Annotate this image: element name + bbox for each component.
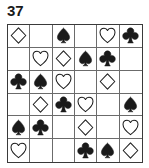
filled-club-icon [77,142,94,159]
grid-cell-r5c6[interactable] [120,116,142,139]
outline-diamond-icon [10,27,27,44]
grid-cell-r4c3[interactable] [53,94,75,117]
grid-cell-r6c6[interactable] [120,139,142,162]
grid-cell-r3c4[interactable] [75,71,97,94]
filled-spade-icon [77,50,94,67]
grid-cell-r4c5[interactable] [97,94,119,117]
grid-cell-r1c3[interactable] [53,25,75,48]
grid-cell-r6c1[interactable] [8,139,30,162]
grid-cell-r6c3[interactable] [53,139,75,162]
filled-spade-icon [32,73,49,90]
grid-cell-r1c1[interactable] [8,25,30,48]
filled-club-icon [32,119,49,136]
outline-heart-icon [55,73,72,90]
grid-cell-r1c5[interactable] [97,25,119,48]
grid-cell-r4c4[interactable] [75,94,97,117]
grid-cell-r2c3[interactable] [53,48,75,71]
grid-cell-r6c5[interactable] [97,139,119,162]
outline-heart-icon [99,27,116,44]
grid-cell-r4c6[interactable] [120,94,142,117]
grid-cell-r5c1[interactable] [8,116,30,139]
outline-diamond-icon [55,50,72,67]
grid-cell-r1c6[interactable] [120,25,142,48]
suit-grid[interactable] [7,24,143,163]
grid-cell-r3c1[interactable] [8,71,30,94]
puzzle-number-label: 37 [7,2,24,20]
grid-cell-r3c2[interactable] [30,71,52,94]
grid-cell-r5c3[interactable] [53,116,75,139]
filled-spade-icon [122,96,139,113]
grid-cell-r1c2[interactable] [30,25,52,48]
grid-cell-r3c6[interactable] [120,71,142,94]
filled-spade-icon [99,142,116,159]
puzzle-panel: 37 [0,0,149,168]
grid-cell-r4c2[interactable] [30,94,52,117]
outline-heart-icon [77,96,94,113]
grid-cell-r6c4[interactable] [75,139,97,162]
grid-cell-r2c1[interactable] [8,48,30,71]
filled-club-icon [99,50,116,67]
grid-cell-r2c6[interactable] [120,48,142,71]
grid-cell-r2c4[interactable] [75,48,97,71]
grid-cell-r5c2[interactable] [30,116,52,139]
grid-cell-r4c1[interactable] [8,94,30,117]
grid-cell-r3c5[interactable] [97,71,119,94]
filled-spade-icon [10,119,27,136]
outline-diamond-icon [77,119,94,136]
filled-club-icon [122,27,139,44]
outline-diamond-icon [99,73,116,90]
grid-cell-r6c2[interactable] [30,139,52,162]
filled-club-icon [55,96,72,113]
grid-cell-r2c2[interactable] [30,48,52,71]
outline-heart-icon [122,119,139,136]
filled-club-icon [10,73,27,90]
grid-cell-r2c5[interactable] [97,48,119,71]
grid-cell-r1c4[interactable] [75,25,97,48]
grid-cell-r3c3[interactable] [53,71,75,94]
grid-cell-r5c4[interactable] [75,116,97,139]
outline-heart-icon [10,142,27,159]
outline-diamond-icon [32,96,49,113]
filled-spade-icon [55,27,72,44]
outline-heart-icon [32,50,49,67]
outline-diamond-icon [122,142,139,159]
grid-cell-r5c5[interactable] [97,116,119,139]
